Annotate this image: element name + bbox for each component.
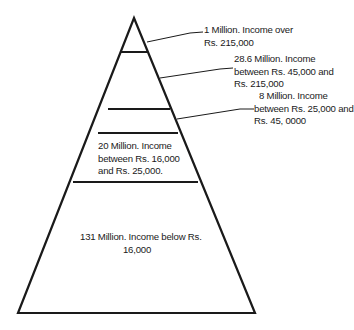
label-level2-line3: Rs. 215,000 — [234, 78, 334, 91]
label-base-line2: 16,000 — [80, 244, 194, 257]
label-top-line2: Rs. 215,000 — [204, 37, 293, 50]
label-base-line1: 131 Million. Income below Rs. — [80, 231, 194, 244]
label-level4-line3: and Rs. 25,000. — [98, 165, 180, 178]
label-level4: 20 Million. Income between Rs. 16,000 an… — [98, 140, 180, 178]
label-level3: 8 Million. Income between Rs. 25,000 and… — [254, 90, 354, 128]
label-level4-line1: 20 Million. Income — [98, 140, 180, 153]
label-level4-line2: between Rs. 16,000 — [98, 153, 180, 166]
label-level2: 28.6 Million. Income between Rs. 45,000 … — [234, 53, 334, 91]
label-level3-line3: Rs. 45, 0000 — [254, 115, 354, 128]
label-level2-line1: 28.6 Million. Income — [234, 53, 334, 66]
leader-line-level3 — [177, 109, 254, 119]
label-level3-line2: between Rs. 25,000 and — [254, 103, 354, 116]
label-base: 131 Million. Income below Rs. 16,000 — [80, 231, 194, 256]
label-top-line1: 1 Million. Income over — [204, 24, 293, 37]
label-top: 1 Million. Income over Rs. 215,000 — [204, 24, 293, 49]
leader-line-level2 — [160, 68, 233, 78]
label-level3-line1: 8 Million. Income — [254, 90, 354, 103]
leader-line-top — [147, 32, 203, 42]
label-level2-line2: between Rs. 45,000 and — [234, 66, 334, 79]
